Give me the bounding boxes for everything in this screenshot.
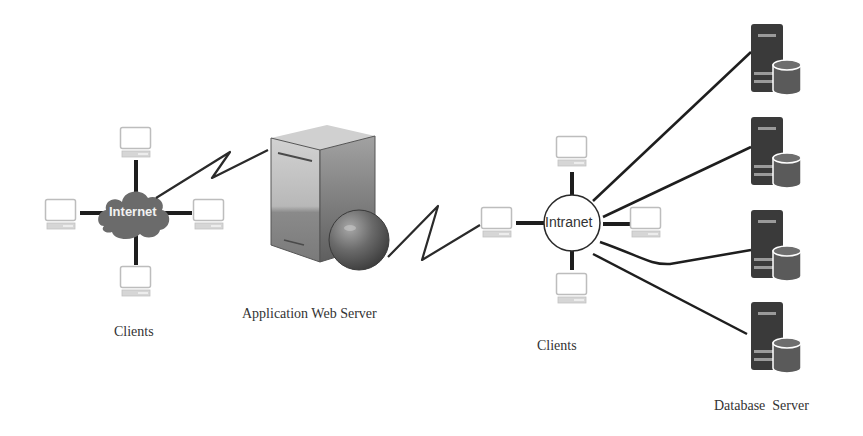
db-server-caption: Database Server bbox=[714, 398, 809, 414]
intranet-to-db-links bbox=[593, 52, 751, 334]
db-server-3-icon bbox=[751, 210, 801, 281]
internet-hub-label: Internet bbox=[109, 204, 157, 219]
right-clients-caption: Clients bbox=[537, 338, 577, 354]
internet-client-bottom bbox=[121, 267, 151, 297]
intranet-client-bottom bbox=[557, 274, 587, 304]
db-server-2-icon bbox=[751, 117, 801, 188]
app-server-caption: Application Web Server bbox=[242, 306, 377, 322]
db-server-1-icon bbox=[751, 24, 801, 95]
internet-client-right bbox=[194, 200, 224, 230]
internet-to-appserver-link bbox=[156, 150, 268, 198]
appserver-to-intranet-link bbox=[388, 206, 480, 260]
internet-client-top bbox=[121, 128, 151, 158]
network-diagram: Internet Intranet Clients Application We… bbox=[0, 0, 863, 436]
intranet-hub-label: Intranet bbox=[545, 214, 592, 230]
intranet-client-top bbox=[557, 137, 587, 167]
intranet-client-left bbox=[482, 208, 512, 238]
left-clients-caption: Clients bbox=[114, 324, 154, 340]
internet-client-left bbox=[46, 200, 76, 230]
intranet-client-right bbox=[631, 208, 661, 238]
db-server-4-icon bbox=[751, 302, 801, 373]
app-web-server-icon bbox=[271, 125, 389, 270]
